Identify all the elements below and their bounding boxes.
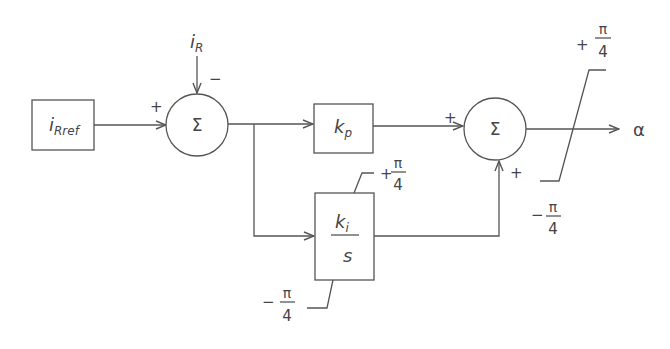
svg-text:π: π — [549, 199, 558, 215]
svg-text:π: π — [283, 285, 292, 301]
pi-controller-diagram: iRref + iR − Σ kp + ki s + π 4 − π 4 — [0, 0, 670, 349]
summing-junction-1: Σ — [166, 94, 228, 156]
proportional-gain-block: kp — [314, 104, 373, 153]
feedback-label: iR — [190, 31, 203, 55]
ki-upper-limit-indicator — [354, 173, 374, 193]
sum1-symbol: Σ — [192, 115, 203, 135]
ki-lower-limit-label: − π 4 — [262, 285, 295, 325]
svg-text:π: π — [599, 21, 608, 37]
ki-lower-limit-indicator — [307, 280, 333, 308]
sum1-plus-sign: + — [150, 98, 163, 116]
svg-text:4: 4 — [598, 43, 608, 61]
svg-text:−: − — [531, 206, 544, 224]
saturation-upper-label: + π 4 — [576, 21, 611, 61]
svg-text:+: + — [576, 36, 589, 54]
sum2-symbol: Σ — [490, 119, 501, 139]
svg-text:+: + — [380, 165, 393, 183]
svg-text:4: 4 — [548, 220, 558, 238]
output-alpha-label: α — [633, 119, 645, 140]
error-to-ki-arrow — [254, 124, 314, 236]
sum1-minus-sign: − — [209, 70, 222, 88]
ki-denominator: s — [343, 245, 352, 266]
saturation-lower-label: − π 4 — [531, 199, 561, 238]
svg-text:−: − — [262, 293, 275, 311]
saturation-block — [540, 70, 606, 181]
integral-gain-block: ki s — [315, 193, 374, 280]
summing-junction-2: Σ — [464, 98, 526, 160]
sum2-plus-top: + — [444, 109, 457, 127]
sum2-plus-bottom: + — [510, 164, 523, 182]
ki-upper-limit-label: + π 4 — [380, 155, 406, 194]
reference-block: iRref — [32, 100, 94, 150]
svg-text:4: 4 — [282, 307, 292, 325]
svg-text:4: 4 — [393, 176, 403, 194]
svg-text:π: π — [394, 155, 403, 171]
